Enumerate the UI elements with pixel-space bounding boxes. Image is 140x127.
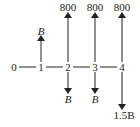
flow-label-3-down: B	[92, 94, 99, 105]
flow-label-4-up: 800	[114, 2, 131, 13]
flow-label-3-up: 800	[87, 2, 104, 13]
flow-label-1-up: B	[38, 26, 45, 37]
flow-label-2-up: 800	[60, 2, 77, 13]
period-3-label: 3	[92, 62, 98, 73]
period-2-label: 2	[65, 62, 71, 73]
period-4-label: 4	[119, 62, 125, 73]
period-1-label: 1	[38, 62, 44, 73]
period-0-label: 0	[11, 62, 17, 73]
flow-label-2-down: B	[65, 94, 72, 105]
up-arrows	[41, 15, 122, 62]
flow-label-4-down: 1.5B	[113, 110, 134, 121]
